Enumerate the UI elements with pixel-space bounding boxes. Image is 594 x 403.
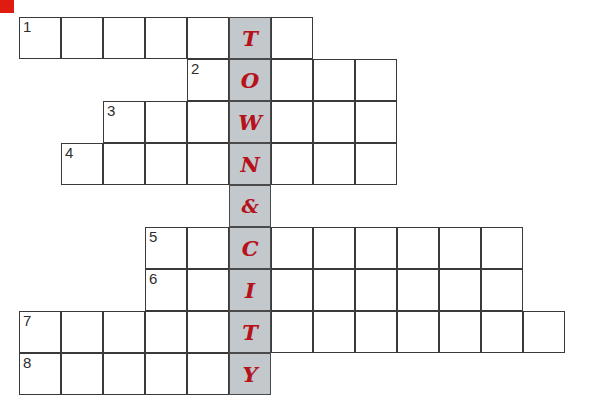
crossword-cell-r7-c6[interactable]: I <box>229 269 271 311</box>
crossword-cell-r3-c4[interactable] <box>145 101 187 143</box>
crossword-grid[interactable]: 1T2O3W4N&5C6I7T8Y <box>0 0 594 403</box>
keyword-letter-9: Y <box>230 354 270 394</box>
crossword-cell-r9-c1[interactable]: 8 <box>19 353 61 395</box>
crossword-cell-r9-c4[interactable] <box>145 353 187 395</box>
crossword-cell-r2-c6[interactable]: O <box>229 59 271 101</box>
crossword-cell-r6-c6[interactable]: C <box>229 227 271 269</box>
clue-number-4: 4 <box>65 144 73 161</box>
crossword-cell-r6-c10[interactable] <box>397 227 439 269</box>
clue-number-5: 5 <box>149 228 157 245</box>
crossword-cell-r1-c5[interactable] <box>187 17 229 59</box>
crossword-cell-r6-c4[interactable]: 5 <box>145 227 187 269</box>
crossword-cell-r2-c8[interactable] <box>313 59 355 101</box>
crossword-cell-r8-c13[interactable] <box>523 311 565 353</box>
crossword-cell-r6-c8[interactable] <box>313 227 355 269</box>
crossword-cell-r8-c10[interactable] <box>397 311 439 353</box>
crossword-cell-r3-c7[interactable] <box>271 101 313 143</box>
crossword-cell-r8-c3[interactable] <box>103 311 145 353</box>
crossword-cell-r1-c6[interactable]: T <box>229 17 271 59</box>
crossword-cell-r8-c8[interactable] <box>313 311 355 353</box>
crossword-cell-r4-c8[interactable] <box>313 143 355 185</box>
crossword-cell-r8-c9[interactable] <box>355 311 397 353</box>
clue-number-3: 3 <box>107 102 115 119</box>
crossword-cell-r7-c9[interactable] <box>355 269 397 311</box>
crossword-cell-r1-c4[interactable] <box>145 17 187 59</box>
crossword-cell-r4-c3[interactable] <box>103 143 145 185</box>
crossword-cell-r7-c12[interactable] <box>481 269 523 311</box>
crossword-cell-r4-c5[interactable] <box>187 143 229 185</box>
crossword-cell-r7-c4[interactable]: 6 <box>145 269 187 311</box>
crossword-canvas: 1T2O3W4N&5C6I7T8Y <box>0 0 594 403</box>
keyword-letter-3: W <box>230 102 270 142</box>
clue-number-8: 8 <box>23 354 31 371</box>
crossword-cell-r4-c7[interactable] <box>271 143 313 185</box>
keyword-letter-1: T <box>230 18 270 58</box>
crossword-cell-r5-c6[interactable]: & <box>229 185 271 227</box>
crossword-cell-r9-c2[interactable] <box>61 353 103 395</box>
clue-number-2: 2 <box>191 60 199 77</box>
crossword-cell-r8-c12[interactable] <box>481 311 523 353</box>
crossword-cell-r6-c11[interactable] <box>439 227 481 269</box>
crossword-cell-r4-c9[interactable] <box>355 143 397 185</box>
keyword-letter-4: N <box>230 144 270 184</box>
keyword-letter-2: O <box>230 60 270 100</box>
crossword-cell-r4-c4[interactable] <box>145 143 187 185</box>
crossword-cell-r6-c7[interactable] <box>271 227 313 269</box>
keyword-letter-5: & <box>230 186 270 226</box>
crossword-cell-r1-c3[interactable] <box>103 17 145 59</box>
crossword-cell-r8-c5[interactable] <box>187 311 229 353</box>
clue-number-6: 6 <box>149 270 157 287</box>
clue-number-7: 7 <box>23 312 31 329</box>
crossword-cell-r2-c9[interactable] <box>355 59 397 101</box>
crossword-cell-r7-c11[interactable] <box>439 269 481 311</box>
crossword-cell-r7-c7[interactable] <box>271 269 313 311</box>
crossword-cell-r4-c2[interactable]: 4 <box>61 143 103 185</box>
clue-number-1: 1 <box>23 18 31 35</box>
crossword-cell-r3-c6[interactable]: W <box>229 101 271 143</box>
crossword-cell-r1-c2[interactable] <box>61 17 103 59</box>
crossword-cell-r6-c9[interactable] <box>355 227 397 269</box>
keyword-letter-6: C <box>230 228 270 268</box>
crossword-cell-r4-c6[interactable]: N <box>229 143 271 185</box>
crossword-cell-r8-c1[interactable]: 7 <box>19 311 61 353</box>
crossword-cell-r8-c6[interactable]: T <box>229 311 271 353</box>
crossword-cell-r2-c5[interactable]: 2 <box>187 59 229 101</box>
crossword-cell-r6-c12[interactable] <box>481 227 523 269</box>
crossword-cell-r2-c7[interactable] <box>271 59 313 101</box>
crossword-cell-r3-c9[interactable] <box>355 101 397 143</box>
crossword-cell-r9-c5[interactable] <box>187 353 229 395</box>
crossword-cell-r7-c8[interactable] <box>313 269 355 311</box>
crossword-cell-r3-c5[interactable] <box>187 101 229 143</box>
crossword-cell-r9-c3[interactable] <box>103 353 145 395</box>
crossword-cell-r1-c7[interactable] <box>271 17 313 59</box>
crossword-cell-r1-c1[interactable]: 1 <box>19 17 61 59</box>
crossword-cell-r7-c10[interactable] <box>397 269 439 311</box>
crossword-cell-r9-c6[interactable]: Y <box>229 353 271 395</box>
crossword-cell-r8-c2[interactable] <box>61 311 103 353</box>
crossword-cell-r8-c4[interactable] <box>145 311 187 353</box>
keyword-letter-8: T <box>230 312 270 352</box>
crossword-cell-r8-c7[interactable] <box>271 311 313 353</box>
keyword-letter-7: I <box>230 270 270 310</box>
crossword-cell-r6-c5[interactable] <box>187 227 229 269</box>
crossword-cell-r3-c3[interactable]: 3 <box>103 101 145 143</box>
crossword-cell-r7-c5[interactable] <box>187 269 229 311</box>
crossword-cell-r3-c8[interactable] <box>313 101 355 143</box>
crossword-cell-r8-c11[interactable] <box>439 311 481 353</box>
